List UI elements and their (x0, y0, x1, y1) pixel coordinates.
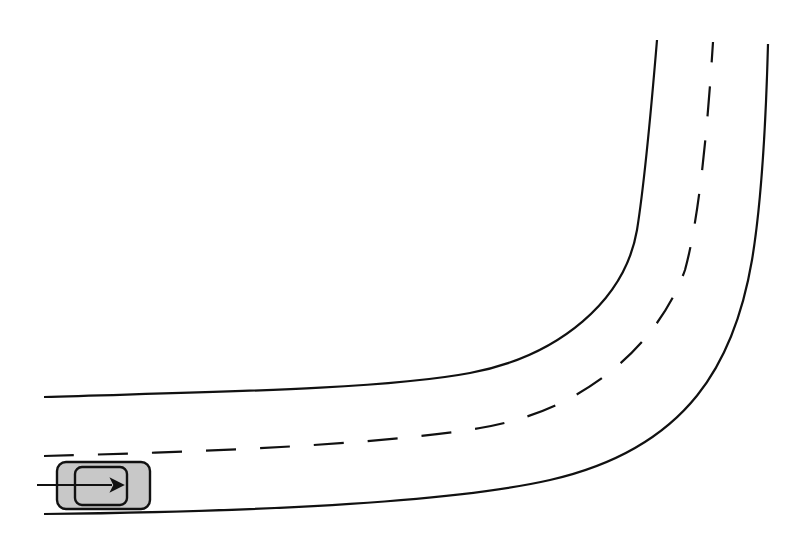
road-inner-edge (44, 40, 657, 397)
road-outer-edge (44, 44, 768, 514)
car (37, 462, 150, 509)
road-diagram: Top-down view of a two-lane road curving… (0, 0, 808, 541)
road-diagram-canvas (0, 0, 808, 541)
